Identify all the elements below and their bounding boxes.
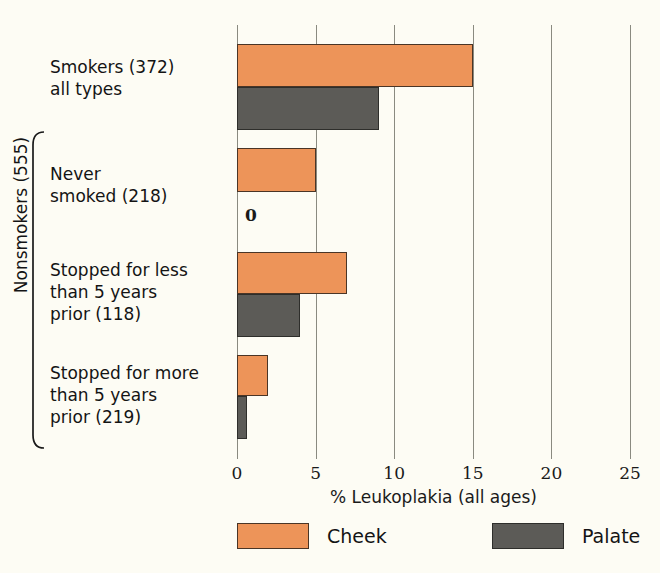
category-label-never-smoked-line2: smoked (218) xyxy=(50,185,228,207)
xtick-label-10: 10 xyxy=(383,463,405,483)
x-axis-title: % Leukoplakia (all ages) xyxy=(237,487,630,507)
category-label-stopped-less-5y-line3: prior (118) xyxy=(50,303,228,325)
category-label-stopped-more-5y-line3: prior (219) xyxy=(50,406,228,428)
bar-cheek-never-smoked xyxy=(237,148,316,192)
nonsmokers-group-label: Nonsmokers (555) xyxy=(11,90,31,340)
legend-label-cheek: Cheek xyxy=(327,525,387,547)
category-label-smokers-line2: all types xyxy=(50,78,228,100)
legend-swatch-palate xyxy=(492,523,564,549)
bar-cheek-stopped-less-5y xyxy=(237,252,347,294)
category-label-stopped-less-5y: Stopped for less than 5 years prior (118… xyxy=(50,259,228,325)
bar-palate-smokers xyxy=(237,87,379,130)
bar-palate-stopped-more-5y xyxy=(237,396,247,439)
category-label-stopped-more-5y-line2: than 5 years xyxy=(50,384,228,406)
xtick-label-15: 15 xyxy=(462,463,484,483)
legend-swatch-cheek xyxy=(237,523,309,549)
category-label-smokers: Smokers (372) all types xyxy=(50,56,228,100)
plot-area: 0 xyxy=(237,25,630,459)
category-label-stopped-more-5y-line1: Stopped for more xyxy=(50,362,228,384)
bar-cheek-stopped-more-5y xyxy=(237,355,268,396)
legend-label-palate: Palate xyxy=(582,525,640,547)
gridline-25 xyxy=(630,25,631,459)
xtick-label-20: 20 xyxy=(541,463,563,483)
category-label-smokers-line1: Smokers (372) xyxy=(50,56,228,78)
category-label-stopped-more-5y: Stopped for more than 5 years prior (219… xyxy=(50,362,228,428)
nonsmokers-bracket-icon xyxy=(31,131,45,449)
xtick-label-5: 5 xyxy=(310,463,321,483)
category-label-never-smoked-line1: Never xyxy=(50,163,228,185)
gridline-10 xyxy=(394,25,395,459)
chart-figure: 0 0 5 10 15 20 25 % Leukoplakia (all age… xyxy=(0,0,660,573)
legend-item-palate: Palate xyxy=(492,523,640,549)
legend-item-cheek: Cheek xyxy=(237,523,387,549)
xtick-label-0: 0 xyxy=(232,463,243,483)
gridline-20 xyxy=(551,25,552,459)
bar-palate-stopped-less-5y xyxy=(237,294,300,337)
gridline-15 xyxy=(473,25,474,459)
category-label-stopped-less-5y-line1: Stopped for less xyxy=(50,259,228,281)
bar-palate-never-smoked-zero-label: 0 xyxy=(245,205,257,225)
category-label-stopped-less-5y-line2: than 5 years xyxy=(50,281,228,303)
category-label-never-smoked: Never smoked (218) xyxy=(50,163,228,207)
chart-legend: Cheek Palate xyxy=(0,519,660,561)
bar-cheek-smokers xyxy=(237,44,473,87)
xtick-label-25: 25 xyxy=(619,463,641,483)
